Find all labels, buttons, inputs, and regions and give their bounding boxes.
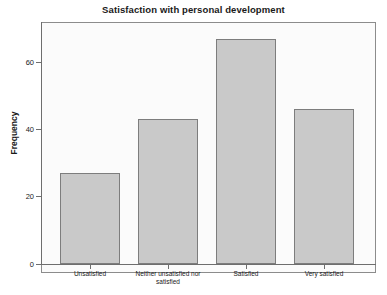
- y-axis-tick-60: [36, 62, 41, 63]
- y-axis-tick-label-20: 20: [10, 192, 34, 201]
- x-axis-label-satisfied: Satisfied: [206, 270, 286, 278]
- bar-very-satisfied: [294, 109, 354, 264]
- chart-title: Satisfaction with personal development: [0, 4, 387, 15]
- y-axis-tick-40: [36, 129, 41, 130]
- x-axis-tick-2: [168, 265, 169, 269]
- x-axis-label-neither-line2: satisfied: [118, 278, 218, 286]
- x-axis-label-neither: Neither unsatisfied nor satisfied: [118, 270, 218, 286]
- x-axis-tick-4: [324, 265, 325, 269]
- x-axis-line: [41, 264, 376, 265]
- x-axis-tick-3: [246, 265, 247, 269]
- bar-unsatisfied: [60, 173, 120, 264]
- bar-satisfied: [216, 39, 276, 264]
- y-axis-tick-label-40: 40: [10, 125, 34, 134]
- chart-container: Satisfaction with personal development F…: [0, 0, 387, 295]
- x-axis-label-very-satisfied: Very satisfied: [284, 270, 364, 278]
- y-axis-tick-20: [36, 196, 41, 197]
- bar-neither-unsatisfied-nor-satisfied: [138, 119, 198, 264]
- y-axis-tick-label-0: 0: [10, 260, 34, 269]
- y-axis-tick-label-60: 60: [10, 58, 34, 67]
- x-axis-label-neither-line1: Neither unsatisfied nor: [118, 270, 218, 278]
- y-axis-line: [41, 22, 42, 265]
- x-axis-tick-1: [90, 265, 91, 269]
